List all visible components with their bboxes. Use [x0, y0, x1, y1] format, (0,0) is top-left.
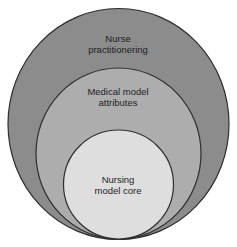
outer-circle-label: Nurse practitionering: [58, 33, 178, 55]
outer-label-line-1: Nurse: [58, 33, 178, 44]
inner-circle-label: Nursing model core: [58, 174, 178, 196]
middle-label-line-1: Medical model: [58, 86, 178, 97]
outer-label-line-2: practitionering: [58, 44, 178, 55]
middle-label-line-2: attributes: [58, 97, 178, 108]
inner-label-line-2: model core: [58, 185, 178, 196]
inner-label-line-1: Nursing: [58, 174, 178, 185]
middle-circle-label: Medical model attributes: [58, 86, 178, 108]
